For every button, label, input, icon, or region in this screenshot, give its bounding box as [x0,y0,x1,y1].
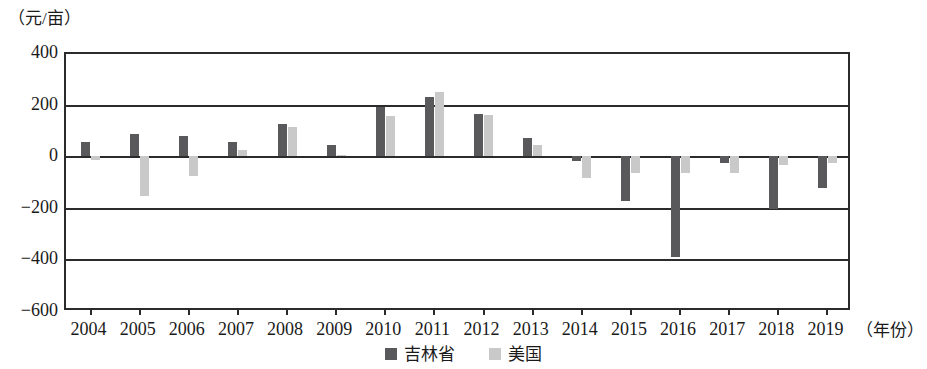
y-axis-tick-label: −400 [2,249,58,267]
x-axis-tick-label: 2010 [365,318,401,340]
gridline [66,208,848,210]
x-axis-tick-label: 2017 [709,318,745,340]
bar [720,156,729,162]
bar [179,136,188,157]
bar [337,155,346,157]
x-axis-tick-mark [237,308,239,315]
x-axis-tick-mark [777,308,779,315]
bar-chart-figure: （元/亩） 4002000−200−400−600 20042005200620… [0,0,927,369]
bar [474,114,483,157]
chart-legend: 吉林省美国 [0,341,927,367]
dark-gray-swatch [385,348,397,360]
x-axis-tick-mark [826,308,828,315]
x-axis-tick-label: 2015 [611,318,647,340]
bar [769,156,778,209]
bar [327,145,336,157]
x-axis-tick-label: 2007 [218,318,254,340]
bar [671,156,680,257]
legend-item: 美国 [489,346,542,363]
bar [91,156,100,160]
x-axis-tick-label: 2009 [316,318,352,340]
x-axis-tick-label: 2013 [513,318,549,340]
bar [130,134,139,156]
y-axis-unit-label: （元/亩） [8,4,81,29]
x-axis-tick-label: 2008 [267,318,303,340]
x-axis-tick-mark [335,308,337,315]
x-axis-tick-mark [90,308,92,315]
bar [582,156,591,178]
x-axis-tick-label: 2016 [660,318,696,340]
x-axis-tick-label: 2012 [464,318,500,340]
x-axis-tick-mark [581,308,583,315]
bar [140,156,149,196]
x-axis-tick-label: 2005 [120,318,156,340]
plot-area [64,52,850,310]
bar [278,124,287,156]
bar [730,156,739,173]
x-axis-tick-label: 2006 [169,318,205,340]
y-axis-tick-labels: 4002000−200−400−600 [0,52,58,310]
x-axis-tick-label: 2014 [562,318,598,340]
y-axis-tick-label: 400 [2,43,58,61]
bar [228,142,237,156]
y-axis-tick-label: −600 [2,301,58,319]
bar [523,138,532,156]
bar [818,156,827,188]
bar [81,142,90,156]
bar [376,107,385,156]
light-gray-swatch [489,348,501,360]
bar [386,116,395,156]
x-axis-tick-mark [630,308,632,315]
y-axis-tick-label: 0 [2,146,58,164]
bar [189,156,198,175]
x-axis-tick-mark [188,308,190,315]
x-axis-tick-mark [532,308,534,315]
x-axis-unit-label: （年份） [856,316,924,341]
bar [631,156,640,173]
y-axis-tick-label: 200 [2,95,58,113]
x-axis-tick-mark [728,308,730,315]
bar [238,150,247,156]
bar [435,92,444,157]
bar [621,156,630,201]
x-axis-tick-mark [433,308,435,315]
bar [425,97,434,156]
bar [828,156,837,162]
x-axis-tick-mark [139,308,141,315]
x-axis-tick-label: 2011 [415,318,450,340]
bar [533,145,542,157]
gridline [66,105,848,107]
x-axis-tick-mark [286,308,288,315]
bar [484,115,493,156]
y-axis-tick-label: −200 [2,198,58,216]
x-axis-tick-mark [679,308,681,315]
bar [572,156,581,161]
x-axis-tick-mark [384,308,386,315]
legend-label: 美国 [508,346,542,363]
gridline [66,259,848,261]
legend-item: 吉林省 [385,346,455,363]
legend-label: 吉林省 [404,346,455,363]
bar [288,127,297,157]
x-axis-tick-mark [483,308,485,315]
bar [779,156,788,165]
bar [681,156,690,173]
x-axis-tick-label: 2019 [807,318,843,340]
x-axis-tick-label: 2004 [71,318,107,340]
x-axis-tick-label: 2018 [758,318,794,340]
